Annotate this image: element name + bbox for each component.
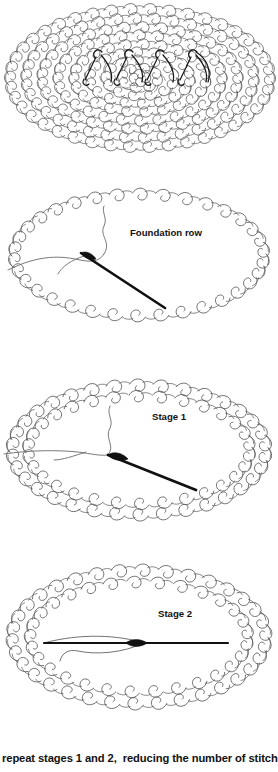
foundation-row-illustration: Foundation row — [0, 180, 278, 330]
panel-label-foundation-row: Foundation row — [130, 227, 202, 238]
panel-label-stage-1: Stage 1 — [152, 411, 187, 422]
panel-label-stage-2: Stage 2 — [158, 608, 192, 619]
stage-2-illustration: Stage 2 — [0, 555, 278, 720]
filled-oval-illustration — [0, 0, 278, 180]
thread-and-needle — [44, 636, 228, 661]
diagram-panel-foundation-row: Foundation row — [0, 180, 278, 330]
diagram-panel-stage-1: Stage 1 — [0, 370, 278, 530]
diagram-panel-filled-oval — [0, 0, 278, 180]
stage-1-illustration: Stage 1 — [0, 370, 278, 530]
caption-text: repeat stages 1 and 2, reducing the numb… — [2, 752, 276, 764]
diagram-panel-stage-2: Stage 2 — [0, 555, 278, 720]
thread-and-needle — [8, 206, 165, 308]
